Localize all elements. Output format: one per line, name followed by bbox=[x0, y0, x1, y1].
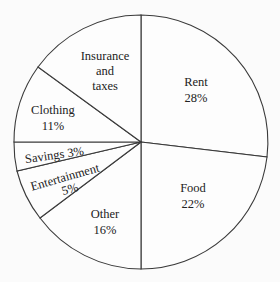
label-clothing: Clothing bbox=[31, 103, 76, 117]
pie-slices bbox=[14, 15, 268, 269]
label-clothing-pct: 11% bbox=[42, 119, 64, 133]
label-food-pct: 22% bbox=[182, 197, 205, 211]
label-insurance-line1: Insurance bbox=[81, 49, 130, 63]
label-insurance-line2: and bbox=[96, 64, 115, 78]
label-rent: Rent bbox=[184, 75, 208, 89]
label-food: Food bbox=[180, 181, 206, 195]
pie-chart: Rent 28% Food 22% Other 16% Entertainmen… bbox=[0, 0, 280, 282]
label-other-pct: 16% bbox=[94, 223, 117, 237]
label-insurance-line3: taxes bbox=[92, 79, 118, 93]
label-other: Other bbox=[91, 207, 120, 221]
label-rent-pct: 28% bbox=[185, 91, 208, 105]
